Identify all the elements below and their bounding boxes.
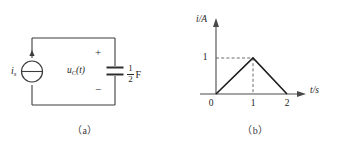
capacitor-voltage-label: uC(t): [67, 66, 85, 76]
x-tick-label-1: 1: [248, 99, 258, 109]
x-axis-label: t/s: [310, 86, 319, 96]
current-source-label-sub: s: [14, 70, 17, 77]
panel-circuit-diagram: is + − uC(t) 1 2 F （a）: [0, 0, 170, 148]
current-source-label: is: [11, 66, 16, 78]
y-axis-label: i/A: [196, 15, 207, 25]
x-axis-arrow-icon: [297, 91, 306, 97]
capacitance-fraction: 1 2: [127, 64, 134, 84]
capacitance-unit: F: [136, 69, 142, 80]
capacitance-value-label: 1 2 F: [127, 64, 141, 84]
x-tick-label-0: 0: [206, 99, 216, 109]
waveform-curve: [216, 58, 287, 94]
y-axis-arrow-icon: [213, 18, 219, 27]
capacitance-numerator: 1: [127, 64, 134, 73]
capacitance-denominator: 2: [127, 75, 134, 84]
caption-panel-a: （a）: [0, 122, 170, 137]
y-tick-label-1: 1: [200, 53, 210, 63]
capacitor-voltage-label-suffix: (t): [76, 65, 85, 75]
x-tick-label-2: 2: [282, 99, 292, 109]
polarity-minus-sign: −: [95, 84, 101, 95]
figure-root: is + − uC(t) 1 2 F （a）: [0, 0, 341, 148]
polarity-plus-sign: +: [95, 47, 101, 58]
caption-panel-b: （b）: [170, 122, 341, 137]
current-direction-arrow-icon: [29, 50, 34, 56]
panel-waveform-chart: i/A t/s 1 0 1 2 （b）: [170, 0, 341, 148]
